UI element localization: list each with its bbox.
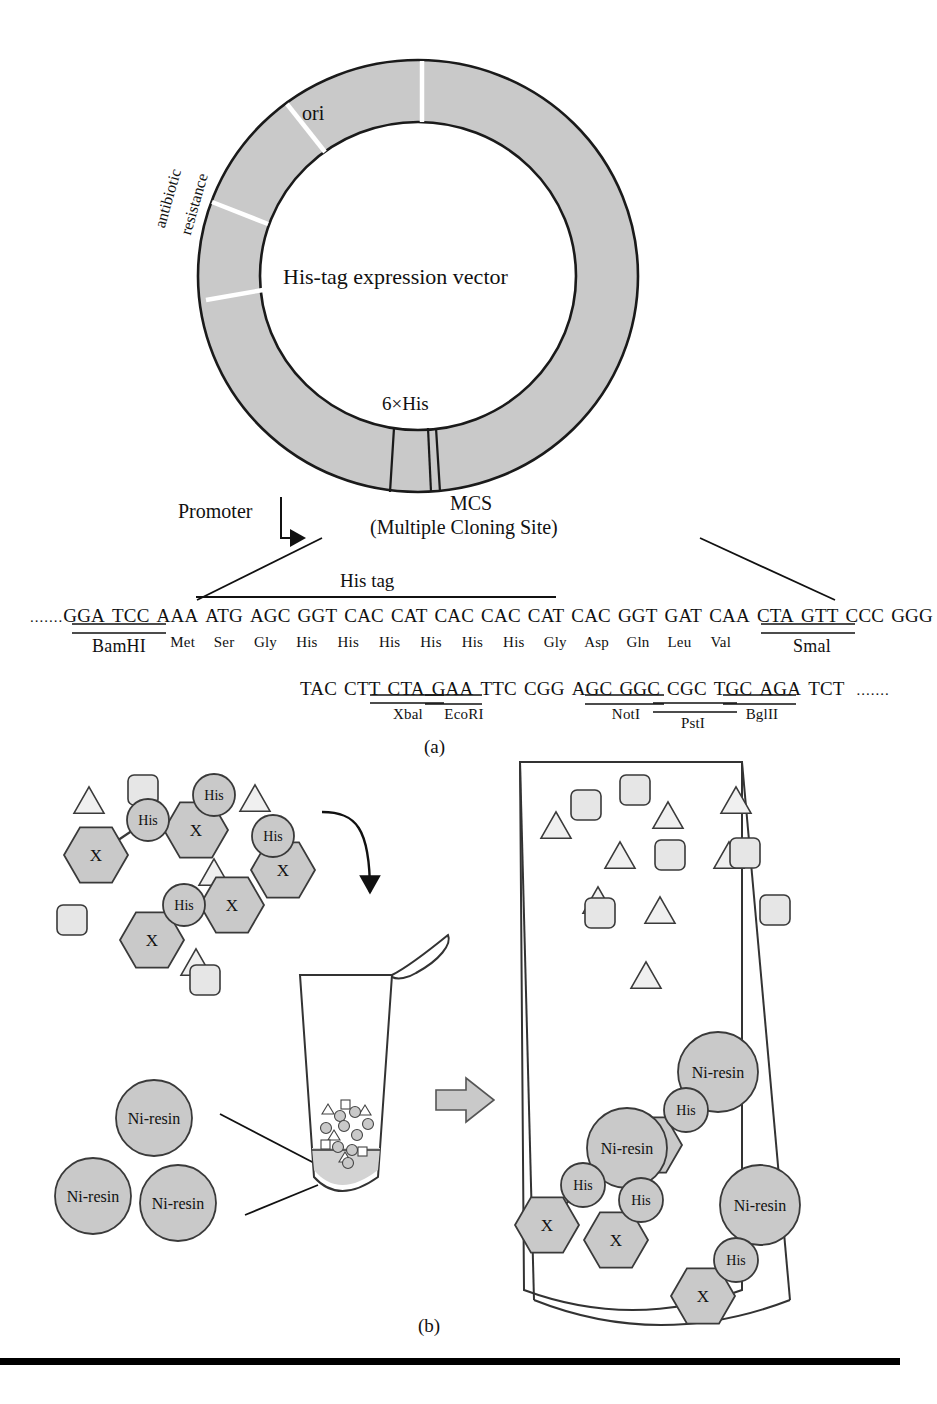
ori-label: ori (302, 102, 324, 125)
right-complex-group: XNi-resinHisXXNi-resinHisHisXNi-resinHis (515, 1032, 800, 1324)
amino-acid-7: His (328, 634, 369, 651)
panel-a-label: (a) (424, 736, 445, 758)
contaminant-square (190, 965, 220, 995)
his-label: His (573, 1178, 592, 1193)
codon-line2-6: AGC (572, 678, 613, 699)
ni-resin-bead: Ni-resin (55, 1158, 131, 1234)
amino-acid-11: His (493, 634, 534, 651)
right-unbound-group (541, 775, 790, 988)
tagged-protein-hexagon: X (64, 827, 128, 882)
amino-acid-10: His (452, 634, 493, 651)
codon-line1-12: GGT (618, 605, 658, 626)
codon-line2-0: TAC (300, 678, 337, 699)
contaminant-triangle (653, 802, 683, 828)
codon-line2-10: AGA (759, 678, 801, 699)
contaminant-square (655, 840, 685, 870)
his-tag-circle: His (193, 774, 235, 816)
contaminant-triangle (541, 812, 571, 838)
codon-line1-18: GGG (891, 605, 933, 626)
contaminant-triangle (645, 897, 675, 923)
contaminant-square (730, 838, 760, 868)
ni-resin-bead: Ni-resin (116, 1080, 192, 1156)
amino-acid-14: Gln (617, 634, 658, 651)
codon-line2-7: GGC (619, 678, 660, 699)
his-tag-circle: His (252, 815, 294, 857)
contaminant-square (760, 895, 790, 925)
his-label: His (726, 1253, 745, 1268)
protein-label: X (90, 846, 102, 865)
codon-line2-9: TGC (714, 678, 753, 699)
amino-acid-5: Gly (245, 634, 286, 651)
codon-line1-11: CAC (571, 605, 611, 626)
promoter-label: Promoter (178, 500, 252, 523)
amino-acid-6: His (286, 634, 327, 651)
mcs-label: MCS (450, 492, 492, 515)
codon-line1-15: CTA (757, 605, 794, 626)
enzyme-label-SmaI: Smal (757, 636, 867, 657)
sequence-suffix: ....... (852, 682, 890, 698)
codon-line2-1: CTT (344, 678, 381, 699)
codon-line1-14: CAA (709, 605, 750, 626)
his-tag-bracket-label: His tag (340, 570, 394, 592)
sequence-line-2: TACCTTCTAGAATTCCGGAGCGGCCGCTGCAGATCT ...… (300, 678, 890, 700)
his-tag-circle: His (714, 1238, 758, 1282)
amino-acid-line-1: MetSerGlyHisHisHisHisHisHisGlyAspGlnLeuV… (162, 634, 741, 651)
sequence-line-1: .......GGATCCAAAATGAGCGGTCACCATCACCACCAT… (30, 605, 937, 627)
contaminant-square (57, 905, 87, 935)
contaminant-triangle (631, 962, 661, 988)
mcs-sublabel: (Multiple Cloning Site) (370, 516, 558, 539)
enzyme-label-NotI: NotI (590, 706, 662, 723)
plasmid-center-label: His-tag expression vector (283, 264, 508, 290)
codon-line2-11: TCT (808, 678, 845, 699)
protein-label: X (146, 931, 158, 950)
protein-label: X (226, 896, 238, 915)
resin-pool-group: Ni-resinNi-resinNi-resin (55, 1080, 216, 1241)
panel-b-label: (b) (418, 1315, 440, 1337)
his-label: His (174, 898, 193, 913)
enzyme-label-BglII: BglII (726, 706, 798, 723)
protein-label: X (190, 821, 202, 840)
protein-label: X (697, 1287, 709, 1306)
ni-resin-bead: Ni-resin (720, 1165, 800, 1245)
contaminant-square (571, 790, 601, 820)
contaminant-triangle (74, 787, 104, 813)
codon-line2-8: CGC (667, 678, 707, 699)
ni-resin-bead: Ni-resin (140, 1165, 216, 1241)
codon-line1-1: TCC (112, 605, 150, 626)
his-label: His (263, 829, 282, 844)
his-tag-circle: His (561, 1163, 605, 1207)
contaminant-square (585, 898, 615, 928)
tagged-protein-hexagon: X (515, 1197, 579, 1252)
amino-acid-15: Leu (659, 634, 700, 651)
codon-line2-3: GAA (432, 678, 474, 699)
resin-label: Ni-resin (67, 1188, 119, 1205)
codon-line2-4: TTC (480, 678, 517, 699)
contaminant-square (620, 775, 650, 805)
his-label: His (138, 813, 157, 828)
protein-label: X (541, 1216, 553, 1235)
codon-line1-13: GAT (665, 605, 703, 626)
codon-line1-5: GGT (298, 605, 338, 626)
protein-label: X (610, 1231, 622, 1250)
codon-line2-5: CGG (524, 678, 565, 699)
amino-acid-16: Val (700, 634, 741, 651)
resin-label: Ni-resin (152, 1195, 204, 1212)
protein-label: X (277, 861, 289, 880)
codon-line1-4: AGC (250, 605, 291, 626)
his-label: His (676, 1103, 695, 1118)
amino-acid-12: Gly (535, 634, 576, 651)
codon-line1-9: CAC (481, 605, 521, 626)
codon-line1-2: AAA (157, 605, 199, 626)
resin-label: Ni-resin (734, 1197, 786, 1214)
enzyme-label-PstI: PstI (657, 715, 729, 732)
codon-line1-8: CAC (434, 605, 474, 626)
contaminant-triangle (240, 785, 270, 811)
his-tag-circle: His (619, 1178, 663, 1222)
resin-label: Ni-resin (601, 1140, 653, 1157)
sequence-prefix: ....... (30, 609, 63, 625)
enzyme-label-BamHI: BamHI (64, 636, 174, 657)
codon-line1-16: GTT (801, 605, 839, 626)
enzyme-label-EcoRI: EcoRI (428, 706, 500, 723)
